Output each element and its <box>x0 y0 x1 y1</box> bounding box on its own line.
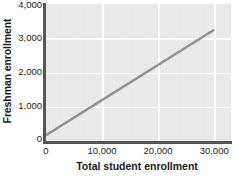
y-tick-label: 4,000 <box>14 0 42 10</box>
y-axis-title-label: Freshman enrollment <box>1 19 13 124</box>
x-tick-label: 20,000 <box>144 145 173 157</box>
x-axis-tick-labels: 0 10,000 20,000 30,000 <box>46 145 231 158</box>
y-tick-label: 2,000 <box>14 67 42 77</box>
y-axis-spine <box>43 3 46 143</box>
y-axis-title: Freshman enrollment <box>0 0 14 142</box>
chart-container: Freshman enrollment 4,000 3,000 2,000 1,… <box>0 0 234 178</box>
regression-line <box>46 4 231 141</box>
x-tick-label: 10,000 <box>88 145 117 157</box>
x-tick-label: 0 <box>43 145 48 157</box>
x-tick-label: 30,000 <box>200 145 229 157</box>
y-tick-label: 1,000 <box>14 101 42 111</box>
series-line-segment <box>46 30 214 135</box>
x-axis-title: Total student enrollment <box>40 160 234 172</box>
y-tick-label: 0 <box>14 134 42 144</box>
plot-area <box>46 4 231 141</box>
y-tick-label: 3,000 <box>14 33 42 43</box>
x-axis-spine <box>43 141 232 144</box>
y-axis-tick-labels: 4,000 3,000 2,000 1,000 0 <box>14 0 42 142</box>
